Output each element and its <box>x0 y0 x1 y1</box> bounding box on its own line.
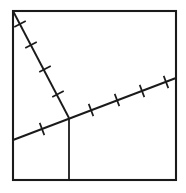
square-frame <box>13 11 176 180</box>
geometry-figure-container <box>0 0 186 193</box>
geometry-figure-svg <box>0 0 186 193</box>
descending-segment <box>13 11 69 118</box>
ascending-segment <box>13 78 176 140</box>
